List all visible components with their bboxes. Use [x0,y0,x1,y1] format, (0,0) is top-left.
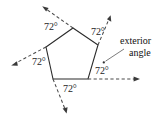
geometry-figure: 72° 72° 72° 72° 72° exterior angle [0,0,162,125]
arrowhead-top-right [107,15,111,22]
arrowhead-left [11,61,18,65]
exterior-angle-callout: exterior angle [120,35,151,58]
angle-label-bottom: 72° [63,84,77,94]
angle-label-left: 72° [32,57,46,67]
angle-label-top-left: 72° [44,22,58,32]
angle-label-bottom-right: 72° [95,66,109,76]
exterior-angle-rays [11,6,140,113]
callout-line-1: exterior [120,35,151,46]
arrowhead-bottom-left [63,107,68,113]
pentagon-diagram-canvas [0,0,162,125]
angle-label-top-right: 72° [91,27,105,37]
leader-dot [103,61,105,63]
callout-line-2: angle [120,47,151,59]
arrowhead-bottom-right [134,76,140,81]
arrowhead-top-left [42,6,48,11]
